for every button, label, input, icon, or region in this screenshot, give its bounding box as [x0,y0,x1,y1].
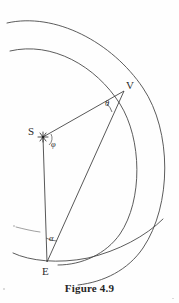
angle-label-alpha: α [49,234,53,243]
inner-orbit-arc [10,49,137,265]
scan-speck [172,298,174,299]
geometry-diagram [0,0,179,303]
segment-S-E [43,137,47,262]
point-S-dot [42,136,45,139]
inner-arc-tick-dot [13,225,14,226]
angle-label-phi: φ [51,140,56,149]
outer-orbit-arc [7,21,165,285]
inner-arc-left-tick [16,227,40,232]
point-label-E: E [42,266,49,277]
angle-label-theta: θ [105,99,109,108]
segment-E-V [47,91,124,262]
lower-orbit-arc [13,219,163,261]
segment-S-V [43,91,124,137]
point-label-V: V [126,80,134,91]
point-label-S: S [28,126,34,137]
scan-speck [3,288,5,290]
figure-caption: Figure 4.9 [0,282,179,294]
figure-container: S V E θ φ α Figure 4.9 [0,0,179,303]
